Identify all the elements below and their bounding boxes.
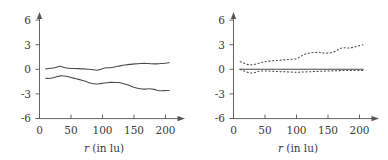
curve-upper-solid xyxy=(46,63,169,71)
curve-lower-solid xyxy=(46,76,169,91)
y-tick-labels-right: 6 3 0 -3 -6 xyxy=(215,14,226,124)
y-axis-arrow-icon xyxy=(37,12,42,19)
axes-right xyxy=(231,12,379,121)
curves-right xyxy=(240,45,363,73)
x-axis-arrow-icon xyxy=(178,116,186,121)
x-tick-label: 0 xyxy=(36,124,43,136)
x-axis-title-unit: (in lu) xyxy=(89,142,124,154)
x-tick-labels-right: 0 50 100 150 200 xyxy=(230,124,369,136)
x-tick-label: 150 xyxy=(124,124,144,136)
x-tick-label: 150 xyxy=(318,124,338,136)
chart-panel-left: 6 3 0 -3 -6 0 50 100 150 200 r (in lu) xyxy=(0,0,194,160)
y-tick-label: -3 xyxy=(215,88,225,100)
y-tick-marks xyxy=(230,20,234,118)
curves-left xyxy=(46,63,169,91)
x-tick-label: 100 xyxy=(286,124,306,136)
x-axis-title-left: r (in lu) xyxy=(84,142,124,154)
x-axis-title-unit: (in lu) xyxy=(283,142,318,154)
y-axis-arrow-icon xyxy=(231,12,236,19)
x-tick-marks xyxy=(40,115,166,119)
y-tick-label: 3 xyxy=(218,39,225,51)
x-tick-label: 200 xyxy=(155,124,175,136)
x-tick-label: 50 xyxy=(258,124,271,136)
chart-svg-right: 6 3 0 -3 -6 0 50 100 150 200 r (in lu) xyxy=(194,0,388,160)
x-tick-label: 50 xyxy=(64,124,77,136)
y-tick-label: -6 xyxy=(21,112,32,124)
x-tick-label: 0 xyxy=(230,124,237,136)
x-axis-arrow-icon xyxy=(372,116,380,121)
y-tick-label: -3 xyxy=(21,88,31,100)
x-axis-title-right: r (in lu) xyxy=(278,142,318,154)
y-tick-label: 6 xyxy=(218,14,225,26)
x-tick-label: 200 xyxy=(349,124,369,136)
curve-lower-dashed xyxy=(240,69,363,73)
y-tick-label: 0 xyxy=(24,63,31,75)
two-panel-figure: 6 3 0 -3 -6 0 50 100 150 200 r (in lu) xyxy=(0,0,388,160)
y-tick-label: 6 xyxy=(24,14,31,26)
y-tick-label: 3 xyxy=(24,39,31,51)
y-tick-label: 0 xyxy=(218,63,225,75)
curve-upper-dashed xyxy=(240,45,363,65)
x-tick-marks xyxy=(234,115,360,119)
x-tick-labels-left: 0 50 100 150 200 xyxy=(36,124,175,136)
chart-panel-right: 6 3 0 -3 -6 0 50 100 150 200 r (in lu) xyxy=(194,0,388,160)
y-tick-marks xyxy=(36,20,40,118)
chart-svg-left: 6 3 0 -3 -6 0 50 100 150 200 r (in lu) xyxy=(0,0,194,160)
y-tick-labels-left: 6 3 0 -3 -6 xyxy=(21,14,32,124)
y-tick-label: -6 xyxy=(215,112,226,124)
x-tick-label: 100 xyxy=(92,124,112,136)
